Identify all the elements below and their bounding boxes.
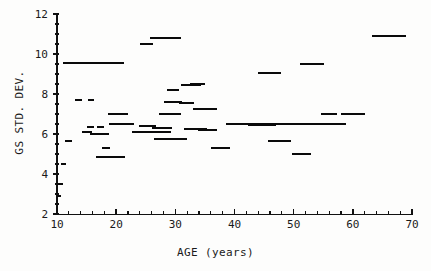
y-axis-title: GS STD. DEV. [13,43,26,183]
y-axis-tick [53,13,59,15]
data-segment [150,37,181,39]
x-axis-tick [56,209,58,214]
data-segment [146,131,171,133]
x-axis-minor-tick [198,211,199,215]
y-axis-tick [53,93,59,95]
y-axis-minor-tick [55,163,59,164]
data-segment [179,102,194,104]
x-tick-label: 30 [169,219,182,230]
y-tick-label: 12 [22,9,48,20]
x-axis-tick [411,209,413,214]
y-axis-tick [53,173,59,175]
x-axis-minor-tick [104,211,105,215]
x-axis-minor-tick [376,211,377,215]
y-axis-minor-tick [55,73,59,74]
data-segment [251,123,346,125]
data-segment [193,108,217,110]
data-segment [198,129,217,131]
y-axis-minor-tick [55,153,59,154]
data-segment [167,89,179,91]
data-segment [97,126,104,128]
x-axis-minor-tick [258,211,259,215]
x-axis-title: AGE (years) [0,246,431,259]
y-axis-tick [53,133,59,135]
x-axis-minor-tick [246,211,247,215]
data-segment [211,147,230,149]
data-segment [57,183,63,185]
x-axis-minor-tick [305,211,306,215]
y-tick-label: 4 [22,169,48,180]
data-segment [132,131,147,133]
y-axis-minor-tick [55,113,59,114]
y-axis-minor-tick [55,33,59,34]
x-axis-tick [293,209,295,214]
x-axis-minor-tick [329,211,330,215]
data-segment [61,163,66,165]
x-axis-minor-tick [281,211,282,215]
data-segment [300,63,325,65]
y-tick-label: 10 [22,49,48,60]
y-axis-minor-tick [55,123,59,124]
x-axis-minor-tick [400,211,401,215]
data-segment [109,123,134,125]
x-axis-minor-tick [163,211,164,215]
x-axis-minor-tick [92,211,93,215]
data-segment [190,83,205,85]
y-tick-label: 6 [22,129,48,140]
y-axis-minor-tick [55,103,59,104]
x-axis-minor-tick [269,211,270,215]
data-segment [372,35,406,37]
data-segment [102,147,110,149]
data-segment [96,156,125,158]
data-segment [57,195,61,197]
data-segment [140,43,154,45]
x-axis-minor-tick [151,211,152,215]
y-axis-minor-tick [55,63,59,64]
data-segment [292,153,311,155]
x-tick-label: 70 [405,219,418,230]
plot-area: 2468101210203040506070 AGE (years) GS ST… [0,0,431,271]
data-segment [258,72,281,74]
x-tick-label: 20 [110,219,123,230]
x-axis-minor-tick [364,211,365,215]
x-axis-minor-tick [210,211,211,215]
y-axis-minor-tick [55,143,59,144]
data-segment [75,99,82,101]
chart-figure: 2468101210203040506070 AGE (years) GS ST… [0,0,431,271]
y-axis-minor-tick [55,23,59,24]
data-segment [108,113,128,115]
data-segment [65,140,72,142]
data-segment [268,140,292,142]
x-tick-label: 10 [50,219,63,230]
data-segment [63,62,124,64]
x-tick-label: 60 [346,219,359,230]
data-segment [159,113,181,115]
y-tick-label: 2 [22,209,48,220]
x-axis-tick [234,209,236,214]
x-tick-label: 50 [287,219,300,230]
x-axis-minor-tick [80,211,81,215]
data-segment [321,113,338,115]
y-axis-minor-tick [55,43,59,44]
x-axis-minor-tick [187,211,188,215]
x-axis-tick [352,209,354,214]
x-axis-minor-tick [68,211,69,215]
x-axis-minor-tick [317,211,318,215]
data-segment [90,133,109,135]
y-axis-tick [53,53,59,55]
data-segment [341,113,365,115]
x-axis-minor-tick [222,211,223,215]
x-axis-minor-tick [340,211,341,215]
x-axis-minor-tick [388,211,389,215]
data-segment [87,126,94,128]
y-axis-minor-tick [55,203,59,204]
x-axis-tick [175,209,177,214]
x-axis-tick [115,209,117,214]
data-segment [154,138,187,140]
data-segment [88,99,95,101]
x-tick-label: 40 [228,219,241,230]
x-axis-minor-tick [127,211,128,215]
x-axis-minor-tick [139,211,140,215]
y-tick-label: 8 [22,89,48,100]
data-segment [152,127,172,129]
